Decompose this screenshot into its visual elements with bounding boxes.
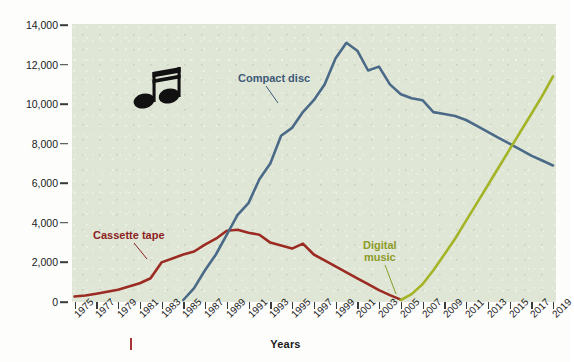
music-note-icon: [133, 66, 185, 112]
footnote-rule: [130, 338, 132, 350]
